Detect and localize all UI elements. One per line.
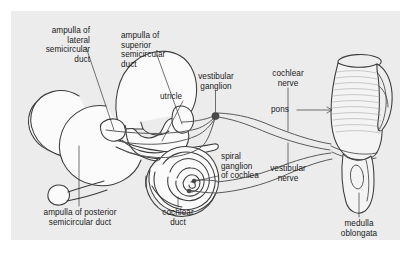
- label-cochlear-nerve: cochlear nerve: [264, 69, 312, 88]
- brainstem: [331, 55, 392, 214]
- inner-ear-diagram: .duct { fill:#fbfbfb; stroke:#3b3b3b; st…: [0, 0, 415, 261]
- label-spiral-ganglion-of-cochlea: spiral ganglion of cochlea: [221, 152, 279, 181]
- label-ampulla-of-superior-semicircular-duct: ampulla of superior semicircular duct: [121, 31, 197, 69]
- label-cochlear-duct: cochlear duct: [153, 208, 203, 227]
- label-utricle: utricle: [160, 92, 200, 102]
- label-pons: pons: [271, 105, 297, 115]
- label-medulla-oblongata: medulla oblongata: [333, 219, 385, 238]
- label-ampulla-of-posterior-semicircular-duct: ampulla of posterior semicircular duct: [25, 208, 135, 227]
- label-ampulla-of-lateral-semicircular-duct: ampulla of lateral semicircular duct: [18, 26, 90, 64]
- label-vestibular-ganglion: vestibular ganglion: [193, 72, 239, 91]
